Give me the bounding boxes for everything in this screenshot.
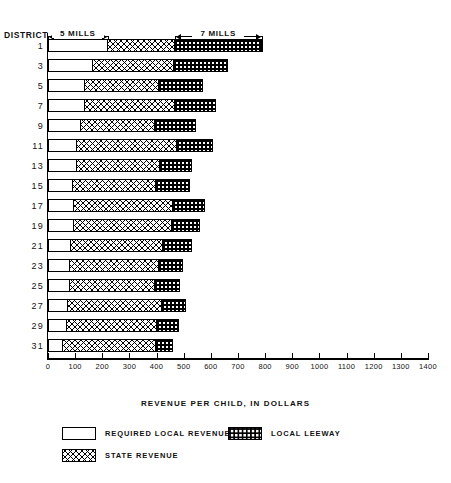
x-axis-tick (102, 353, 103, 358)
x-axis-tick-label: 300 (114, 362, 144, 371)
x-axis-tick (75, 353, 76, 358)
legend-label-leeway: LOCAL LEEWAY (271, 429, 341, 438)
bar-row (48, 159, 192, 172)
bar-segment-local-leeway (173, 200, 204, 211)
x-axis-tick (292, 353, 293, 358)
bar-segment-state-revenue (71, 240, 163, 251)
bar-row (48, 59, 228, 72)
district-label: 29 (8, 321, 44, 331)
x-axis-tick (401, 353, 402, 358)
x-axis-tick (157, 353, 158, 358)
legend-swatch-state (62, 449, 96, 462)
bar-segment-local-leeway (163, 240, 192, 251)
legend-label-state: STATE REVENUE (105, 451, 179, 460)
bar-row (48, 199, 205, 212)
district-label: 11 (8, 141, 44, 151)
mills-bracket-tick (262, 36, 263, 52)
bar-row (48, 179, 190, 192)
bar-segment-state-revenue (81, 120, 155, 131)
district-label: 5 (8, 81, 44, 91)
bar-row (48, 99, 216, 112)
bar-row (48, 119, 196, 132)
x-axis-tick-label: 1200 (359, 362, 389, 371)
x-axis-tick-label: 100 (60, 362, 90, 371)
x-axis-tick-label: 600 (196, 362, 226, 371)
x-axis-tick (319, 353, 320, 358)
bar-row (48, 219, 200, 232)
district-label: 25 (8, 281, 44, 291)
bar-segment-required-local-revenue (49, 40, 108, 51)
x-axis-tick (347, 353, 348, 358)
x-axis-tick (428, 353, 429, 358)
mills-annotation-label: 7 MILLS (192, 29, 244, 38)
legend-item-state: STATE REVENUE (62, 449, 179, 462)
legend-label-required: REQUIRED LOCAL REVENUE (105, 429, 231, 438)
bar-segment-state-revenue (77, 160, 160, 171)
district-label: 1 (8, 41, 44, 51)
bar-segment-local-leeway (162, 300, 185, 311)
mills-annotation-label: 5 MILLS (52, 29, 104, 38)
x-axis-tick (238, 353, 239, 358)
district-label: 9 (8, 121, 44, 131)
x-axis-tick-label: 0 (33, 362, 63, 371)
district-label: 13 (8, 161, 44, 171)
x-axis-tick (129, 353, 130, 358)
bar-row (48, 39, 262, 52)
bar-segment-required-local-revenue (49, 340, 63, 351)
bar-segment-local-leeway (172, 220, 199, 231)
bar-row (48, 319, 179, 332)
bar-segment-required-local-revenue (49, 320, 67, 331)
bar-segment-state-revenue (93, 60, 174, 71)
district-label: 17 (8, 201, 44, 211)
bar-segment-required-local-revenue (49, 100, 85, 111)
bar-segment-local-leeway (175, 40, 261, 51)
bar-segment-state-revenue (70, 280, 156, 291)
x-axis-tick (374, 353, 375, 358)
legend-item-leeway: LOCAL LEEWAY (228, 427, 341, 440)
bar-segment-local-leeway (159, 260, 182, 271)
bar-segment-required-local-revenue (49, 220, 74, 231)
bar-segment-state-revenue (77, 140, 178, 151)
bar-segment-required-local-revenue (49, 140, 77, 151)
x-axis-tick (184, 353, 185, 358)
bar-segment-required-local-revenue (49, 280, 70, 291)
bar-segment-local-leeway (155, 120, 195, 131)
bar-segment-local-leeway (174, 60, 226, 71)
bar-segment-state-revenue (63, 340, 156, 351)
x-axis-tick-label: 1300 (386, 362, 416, 371)
bar-row (48, 139, 213, 152)
x-axis-tick (265, 353, 266, 358)
y-axis-spine (47, 33, 49, 358)
bar-row (48, 239, 192, 252)
bar-segment-required-local-revenue (49, 300, 68, 311)
bar-segment-state-revenue (70, 260, 160, 271)
district-axis-heading: DISTRICT (4, 30, 48, 40)
bar-segment-required-local-revenue (49, 160, 77, 171)
bar-segment-local-leeway (175, 100, 215, 111)
legend-swatch-required (62, 427, 96, 440)
bar-row (48, 79, 203, 92)
bar-segment-required-local-revenue (49, 80, 85, 91)
bar-segment-state-revenue (73, 180, 157, 191)
bar-row (48, 299, 186, 312)
stacked-bar-chart: DISTRICT 5 MILLS7 MILLS 1357911131517192… (0, 0, 451, 483)
bar-segment-state-revenue (74, 200, 174, 211)
bar-row (48, 279, 180, 292)
bar-segment-local-leeway (156, 340, 172, 351)
district-label: 15 (8, 181, 44, 191)
bar-segment-state-revenue (85, 80, 159, 91)
bar-segment-required-local-revenue (49, 60, 93, 71)
x-axis-line (47, 358, 429, 360)
district-label: 7 (8, 101, 44, 111)
bar-segment-local-leeway (156, 180, 188, 191)
x-axis-tick (48, 353, 49, 358)
bar-segment-required-local-revenue (49, 240, 71, 251)
bar-segment-local-leeway (160, 160, 192, 171)
x-axis-tick-label: 900 (277, 362, 307, 371)
bar-segment-local-leeway (159, 80, 202, 91)
x-axis-tick-label: 1400 (413, 362, 443, 371)
bar-segment-required-local-revenue (49, 200, 74, 211)
x-axis-title: REVENUE PER CHILD, IN DOLLARS (0, 399, 451, 408)
bar-segment-local-leeway (157, 320, 178, 331)
district-label: 3 (8, 61, 44, 71)
